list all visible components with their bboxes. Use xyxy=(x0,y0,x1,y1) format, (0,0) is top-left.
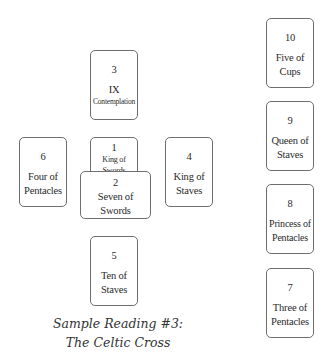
card-number: 1 xyxy=(111,141,116,155)
card-2: 2 Seven of Swords xyxy=(80,171,151,219)
card-3: 3 IX Contemplation xyxy=(90,50,138,120)
card-number: 2 xyxy=(113,176,118,190)
card-10: 10 Five of Cups xyxy=(266,18,314,88)
card-subtitle: Contemplation xyxy=(93,97,135,107)
card-name: Ten of Staves xyxy=(101,269,127,297)
card-number: 4 xyxy=(186,150,191,164)
card-4: 4 King of Staves xyxy=(165,137,213,207)
card-8: 8 Princess of Pentacles xyxy=(266,184,314,254)
card-6: 6 Four of Pentacles xyxy=(19,137,67,207)
card-5: 5 Ten of Staves xyxy=(90,236,138,306)
card-number: 8 xyxy=(287,197,292,211)
card-name: Five of Cups xyxy=(276,51,305,79)
card-number: 6 xyxy=(40,150,45,164)
card-number: 10 xyxy=(285,31,295,45)
caption-line-1: Sample Reading #3: xyxy=(52,314,184,333)
card-name: Princess of Pentacles xyxy=(269,217,311,244)
card-name: Four of Pentacles xyxy=(24,170,62,198)
caption-line-2: The Celtic Cross xyxy=(52,333,184,352)
card-number: 9 xyxy=(287,114,292,128)
card-name: Queen of Staves xyxy=(271,134,308,162)
card-name: IX xyxy=(109,83,120,97)
card-name: King of Staves xyxy=(174,170,205,198)
card-number: 5 xyxy=(111,249,116,263)
card-9: 9 Queen of Staves xyxy=(266,101,314,171)
caption: Sample Reading #3: The Celtic Cross xyxy=(52,314,184,352)
card-name: Seven of Swords xyxy=(98,190,133,218)
card-7: 7 Three of Pentacles xyxy=(266,268,314,338)
card-name: Three of Pentacles xyxy=(271,301,309,329)
card-number: 3 xyxy=(111,63,116,77)
card-number: 7 xyxy=(287,281,292,295)
